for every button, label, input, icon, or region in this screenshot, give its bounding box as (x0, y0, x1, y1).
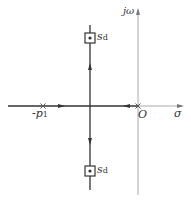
locus-arrow-left-icon (123, 104, 130, 108)
sd-lower-label: sd (97, 163, 108, 176)
pole-p1-label: -p1 (32, 107, 48, 120)
locus-arrow-down-icon (88, 138, 92, 145)
sd-upper-marker-icon (85, 33, 95, 43)
imag-axis-arrow-icon (136, 8, 140, 15)
real-axis-label: σ (174, 107, 182, 120)
locus-arrow-right-icon (58, 104, 65, 108)
sd-upper-label: sd (97, 30, 108, 43)
imag-axis-label: jω (123, 5, 134, 16)
root-locus-plot (0, 0, 191, 207)
locus-arrow-up-icon (88, 63, 92, 70)
sd-lower-marker-icon (85, 166, 95, 176)
origin-label: O (138, 108, 147, 121)
